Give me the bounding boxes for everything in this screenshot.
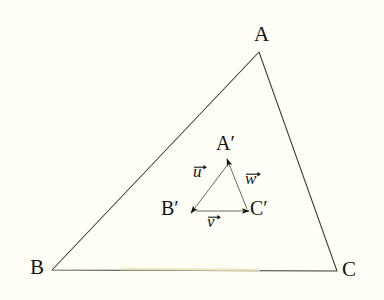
vector-label-u: u	[193, 163, 202, 180]
vertex-label-c-prime: C′	[250, 198, 268, 218]
vertex-label-b: B	[30, 257, 44, 278]
vertex-label-b-prime: B′	[161, 198, 179, 218]
vertex-label-c: C	[342, 259, 356, 280]
bottom-edge-scan-tint	[120, 269, 260, 270]
figure-canvas	[0, 0, 384, 300]
vertex-label-a: A	[254, 24, 269, 45]
vertex-label-a-prime: A′	[216, 133, 235, 153]
vector-triangle-figure: A B C A′ B′ C′ u v w	[0, 0, 384, 300]
vector-label-v: v	[207, 213, 215, 230]
vector-label-w: w	[245, 170, 256, 187]
vector-w-arrow	[227, 159, 247, 209]
